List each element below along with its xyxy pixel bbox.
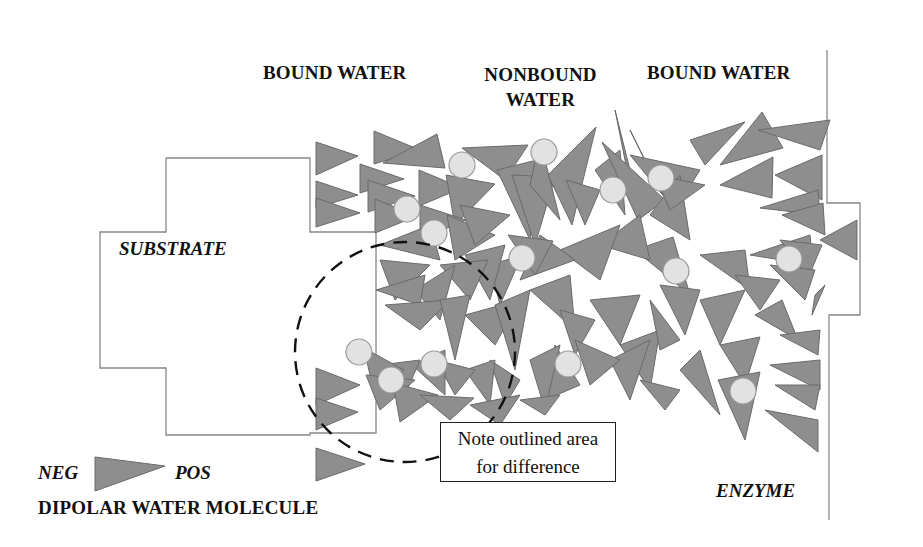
dipole-triangle-icon [95, 457, 165, 491]
ion-circle [421, 351, 447, 377]
water-molecule-triangle [775, 385, 820, 410]
note-line2: for difference [441, 453, 615, 481]
enzyme-outline [827, 50, 860, 520]
ion-circle [394, 196, 420, 222]
water-molecule-triangle [820, 220, 857, 260]
water-molecule-triangle [560, 225, 620, 280]
water-molecule-triangle [590, 295, 640, 345]
label-substrate: SUBSTRATE [119, 238, 227, 260]
label-nonbound-line1: NONBOUND [478, 62, 603, 87]
water-molecule-triangle [316, 142, 358, 175]
label-enzyme: ENZYME [716, 480, 795, 502]
ion-circle [555, 351, 581, 377]
label-bound-water-left: BOUND WATER [263, 62, 407, 84]
water-molecule-triangle [316, 198, 360, 227]
ion-circle [663, 258, 689, 284]
water-molecule-triangle [780, 330, 820, 355]
water-molecule-triangle [316, 368, 360, 405]
ion-circle [600, 177, 626, 203]
water-molecule-triangle [575, 340, 620, 385]
ion-circle [648, 165, 674, 191]
label-nonbound-line2: WATER [478, 87, 603, 112]
ion-circle [346, 339, 372, 365]
legend-pos-label: POS [175, 462, 211, 484]
legend-neg-label: NEG [38, 462, 78, 484]
label-bound-water-right: BOUND WATER [647, 62, 791, 84]
water-molecule-triangle [812, 285, 825, 315]
water-molecule-triangle [470, 395, 520, 425]
ion-circle [730, 378, 756, 404]
water-molecule-triangle [316, 448, 365, 481]
ion-circle [776, 246, 802, 272]
note-callout: Note outlined area for difference [440, 422, 616, 482]
water-molecule-triangle [700, 290, 745, 345]
water-molecule-triangle [765, 410, 818, 452]
water-molecule-triangle [640, 380, 680, 410]
ion-circle [449, 152, 475, 178]
label-nonbound-water: NONBOUND WATER [478, 62, 603, 112]
legend-title: DIPOLAR WATER MOLECULE [38, 497, 318, 519]
water-molecule-triangle [420, 395, 474, 420]
ion-circle [531, 139, 557, 165]
note-line1: Note outlined area [441, 425, 615, 453]
ion-circle [509, 245, 535, 271]
ion-circle [378, 367, 404, 393]
water-molecule-triangle [520, 395, 560, 415]
ion-circle [421, 220, 447, 246]
water-molecule-triangle [680, 350, 720, 415]
